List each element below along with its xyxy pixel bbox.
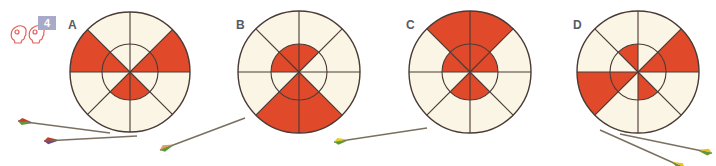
- arrow: [334, 128, 427, 145]
- arrow: [160, 118, 245, 152]
- exercise-4-archery-targets: 4 A B C D: [0, 0, 716, 166]
- fletching: [44, 141, 58, 145]
- target-a: [70, 12, 190, 132]
- arrow: [44, 136, 137, 144]
- targets-layer: [70, 11, 699, 133]
- target-c: [409, 11, 531, 133]
- targets-and-arrows: [0, 0, 716, 166]
- target-d: [577, 11, 699, 133]
- arrow: [600, 130, 685, 166]
- target-b: [238, 11, 360, 133]
